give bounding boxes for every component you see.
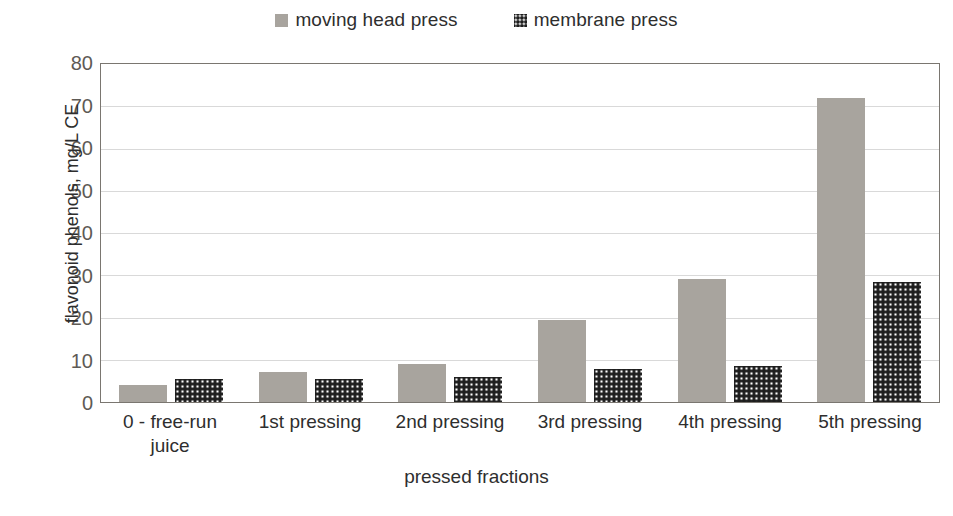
bar-group — [520, 64, 660, 402]
x-axis-title: pressed fractions — [0, 466, 953, 488]
bar-moving-head-press[interactable] — [678, 279, 726, 402]
y-tick-0: 0 — [82, 392, 93, 415]
legend-label-membrane-press: membrane press — [534, 9, 678, 31]
y-axis-ticks: 80 70 60 50 40 30 20 10 0 flavonoid phen… — [40, 63, 93, 403]
bar-moving-head-press[interactable] — [398, 364, 446, 402]
bar-membrane-press[interactable] — [315, 379, 363, 402]
bar-membrane-press[interactable] — [873, 282, 921, 402]
x-axis-tick-labels: 0 - free-run juice 1st pressing 2nd pres… — [100, 410, 940, 458]
y-axis-title: flavonoid phenols, mg/L CE — [62, 64, 83, 364]
bar-membrane-press[interactable] — [594, 369, 642, 402]
bar-membrane-press[interactable] — [454, 377, 502, 402]
bar-groups — [101, 64, 939, 402]
bar-group — [660, 64, 800, 402]
x-label-1: 1st pressing — [240, 410, 380, 458]
legend-swatch-dotted-icon — [514, 14, 527, 27]
x-label-5: 5th pressing — [800, 410, 940, 458]
bar-moving-head-press[interactable] — [259, 372, 307, 402]
bar-group — [380, 64, 520, 402]
x-label-4: 4th pressing — [660, 410, 800, 458]
bar-group — [799, 64, 939, 402]
bar-group — [101, 64, 241, 402]
chart-plot-area — [100, 63, 940, 403]
x-label-0: 0 - free-run juice — [100, 410, 240, 458]
legend-swatch-solid-icon — [275, 14, 288, 27]
chart-legend: moving head press membrane press — [0, 6, 953, 34]
bar-membrane-press[interactable] — [734, 366, 782, 402]
bar-group — [241, 64, 381, 402]
x-label-3: 3rd pressing — [520, 410, 660, 458]
x-label-2: 2nd pressing — [380, 410, 520, 458]
bar-moving-head-press[interactable] — [119, 385, 167, 402]
legend-item-moving-head-press: moving head press — [275, 9, 457, 31]
legend-label-moving-head-press: moving head press — [295, 9, 457, 31]
bar-moving-head-press[interactable] — [538, 320, 586, 402]
legend-item-membrane-press: membrane press — [514, 9, 678, 31]
bar-moving-head-press[interactable] — [817, 98, 865, 402]
bar-membrane-press[interactable] — [175, 379, 223, 402]
